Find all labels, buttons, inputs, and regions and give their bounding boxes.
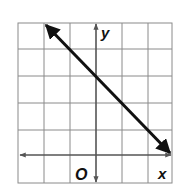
origin-label: O <box>75 166 88 183</box>
y-axis-label: y <box>100 24 110 41</box>
line-series <box>46 25 170 153</box>
x-axis-label: x <box>157 165 167 182</box>
coordinate-graph: y x O <box>0 0 186 185</box>
grid <box>18 23 172 183</box>
